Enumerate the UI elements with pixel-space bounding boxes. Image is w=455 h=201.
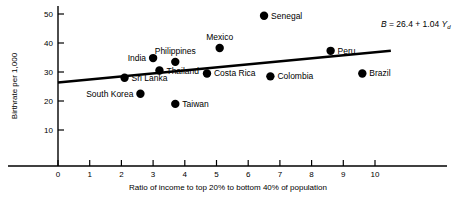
scatter-chart: 012345678910 1020304050 Birthrate per 1,…	[0, 0, 455, 201]
y-tick-label: 20	[44, 97, 53, 106]
data-point-label: Costa Rica	[214, 68, 256, 78]
y-tick-label: 30	[44, 68, 53, 77]
x-tick-label: 5	[214, 170, 219, 179]
data-point-label: South Korea	[86, 89, 134, 99]
chart-background	[0, 0, 455, 201]
data-point-label: Mexico	[206, 32, 233, 42]
data-point	[326, 47, 334, 55]
x-tick-label: 6	[246, 170, 251, 179]
x-tick-label: 4	[183, 170, 188, 179]
data-point-label: Taiwan	[182, 99, 209, 109]
x-tick-label: 8	[309, 170, 314, 179]
data-point-label: Colombia	[277, 71, 313, 81]
data-point-label: Brazil	[369, 68, 390, 78]
data-point-label: India	[128, 53, 147, 63]
data-point	[120, 74, 128, 82]
regression-equation: B = 26.4 + 1.04 Yd	[381, 19, 451, 30]
data-point	[203, 69, 211, 77]
data-point	[266, 72, 274, 80]
data-point	[136, 90, 144, 98]
equation-body: = 26.4 + 1.04	[387, 19, 442, 29]
data-point	[358, 69, 366, 77]
x-tick-label: 0	[56, 170, 61, 179]
x-axis-title: Ratio of income to top 20% to bottom 40%…	[129, 183, 327, 192]
data-point-label: Thailand	[166, 66, 199, 76]
y-tick-label: 10	[44, 126, 53, 135]
data-point	[260, 12, 268, 20]
x-tick-label: 9	[341, 170, 346, 179]
x-tick-label: 10	[371, 170, 380, 179]
data-point-label: Sri Lanka	[132, 73, 168, 83]
data-point-label: Senegal	[271, 11, 302, 21]
y-axis-title: Birthrate per 1,000	[10, 52, 19, 119]
x-tick-label: 2	[119, 170, 124, 179]
data-point-label: Philippines	[155, 46, 196, 56]
data-point	[171, 100, 179, 108]
x-tick-label: 7	[278, 170, 283, 179]
x-tick-label: 1	[87, 170, 92, 179]
y-tick-label: 40	[44, 39, 53, 48]
x-tick-label: 3	[151, 170, 156, 179]
data-point-label: Peru	[338, 46, 356, 56]
data-point	[215, 44, 223, 52]
y-tick-label: 50	[44, 10, 53, 19]
